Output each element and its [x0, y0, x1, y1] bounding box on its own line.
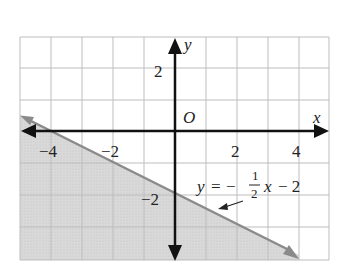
tick-label-x-neg4: −4	[39, 142, 58, 161]
equation-x: x	[263, 177, 272, 196]
tick-label-x-neg2: −2	[101, 142, 119, 161]
equation-equals: =	[211, 177, 221, 196]
annotation-arrowhead-icon	[218, 203, 228, 210]
tick-label-y-2: 2	[154, 62, 163, 81]
origin-label: O	[183, 108, 195, 127]
equation-label: y = − 1 2 x − 2	[195, 168, 300, 201]
annotation-arrow	[218, 201, 243, 210]
tick-label-x-2: 2	[231, 142, 240, 161]
equation-minus: −	[226, 177, 236, 196]
tick-label-x-4: 4	[292, 142, 301, 161]
y-axis-arrow-up-icon	[168, 38, 182, 54]
equation-denominator: 2	[251, 186, 258, 201]
coordinate-plane: y x O 2 −4 −2 2 4 −2 y = − 1 2 x − 2	[0, 0, 339, 277]
tick-label-y-neg2: −2	[141, 190, 159, 209]
equation-numerator: 1	[252, 168, 259, 183]
equation-y: y	[195, 177, 205, 196]
x-axis-label: x	[312, 108, 321, 127]
equation-tail: − 2	[278, 177, 300, 196]
y-axis-label: y	[182, 35, 192, 54]
